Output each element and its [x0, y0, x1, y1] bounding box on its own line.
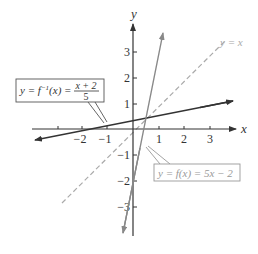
y-tick-label: 3 — [124, 45, 130, 59]
y-tick-label: −2 — [117, 174, 130, 188]
x-tick-label: 3 — [207, 132, 213, 146]
x-tick-label: 2 — [181, 132, 187, 146]
inverse-label-sup: −1 — [41, 84, 49, 92]
x-tick-label: −1 — [99, 132, 112, 146]
x-tick-label: −2 — [74, 132, 87, 146]
y-tick-label: −1 — [117, 148, 130, 162]
y-axis-label: y — [129, 6, 137, 21]
inverse-function-callout: y = f−1(x) = x + 2 5 — [16, 79, 107, 123]
x-tick-label: 1 — [156, 132, 162, 146]
inverse-label-mid: (x) = — [49, 84, 71, 97]
x-axis-label: x — [240, 121, 247, 136]
identity-label: y = x — [219, 36, 243, 48]
function-callout: y = f(x) = 5x − 2 — [146, 146, 240, 181]
function-inverse-diagram: −2 −1 1 2 3 3 2 1 −1 −2 −3 x y y = x y =… — [0, 0, 258, 254]
inverse-label-denominator: 5 — [84, 91, 89, 102]
inverse-label-numerator: x + 2 — [74, 80, 96, 91]
y-tick-label: 1 — [124, 97, 130, 111]
inverse-function-arrow-right — [200, 101, 233, 108]
inverse-label-prefix: y = f — [19, 84, 43, 96]
y-tick-label: 2 — [124, 71, 130, 85]
function-label: y = f(x) = 5x − 2 — [157, 167, 233, 180]
